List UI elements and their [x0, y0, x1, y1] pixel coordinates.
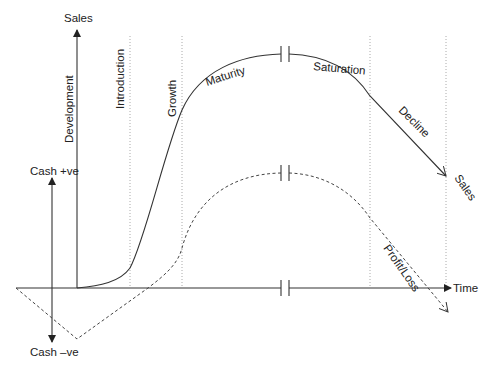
profit-loss-curve-label: Profit/Loss — [381, 242, 422, 294]
stage-label-decline: Decline — [397, 104, 433, 140]
stage-label-maturity: Maturity — [204, 64, 247, 88]
profit-loss-curve — [16, 173, 448, 339]
sales-curve-label: Sales — [452, 172, 478, 203]
stage-label-growth: Growth — [166, 80, 178, 117]
product-life-cycle-diagram: Sales Cash +ve Cash –ve Time Development… — [0, 0, 488, 369]
cash-negative-label: Cash –ve — [30, 346, 79, 358]
cash-positive-label: Cash +ve — [30, 165, 79, 177]
stage-label-development: Development — [63, 74, 75, 143]
sales-axis-label: Sales — [64, 12, 93, 24]
stage-dividers — [130, 36, 446, 288]
stage-label-saturation: Saturation — [313, 60, 366, 77]
profit-axis-break — [281, 165, 289, 181]
time-axis-label: Time — [453, 282, 478, 294]
stage-label-introduction: Introduction — [114, 49, 126, 109]
